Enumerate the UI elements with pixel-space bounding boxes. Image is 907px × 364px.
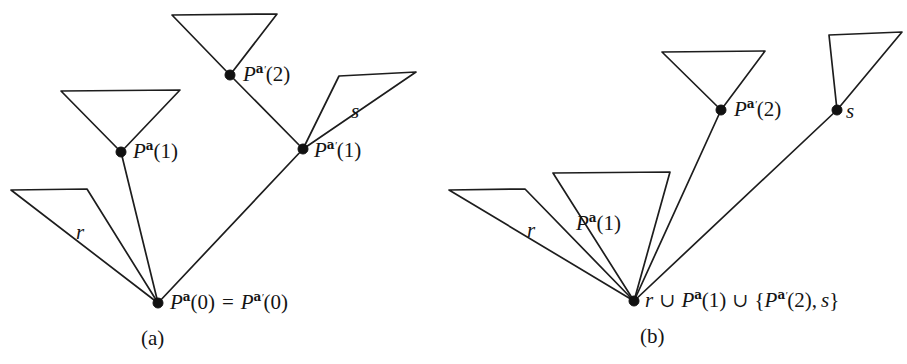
label-s-glyph: s	[351, 99, 359, 123]
label-equals-sign: =	[215, 290, 241, 314]
node-pap1-a	[298, 144, 308, 154]
triangle-r-a	[11, 189, 158, 303]
label-arg-two: (2)	[266, 62, 291, 86]
label-P-glyph: P	[576, 211, 589, 235]
label-arg-one: (1)	[153, 139, 178, 163]
label-arg-two: (2)	[757, 97, 782, 121]
label-P-glyph: P	[243, 62, 256, 86]
panel-b-graphics	[449, 32, 902, 306]
label-pap2-a: Pa′(2)	[243, 64, 290, 85]
label-s-glyph: s	[846, 99, 854, 123]
node-s-b	[832, 105, 842, 115]
label-arg-one: (1)	[702, 288, 727, 312]
label-P-glyph: P	[133, 139, 146, 163]
label-root-union-b: r∪Pa(1)∪{Pa′(2),s}	[645, 290, 839, 311]
edge-root-to-pap1-a	[158, 149, 303, 303]
label-brace-open: {	[754, 288, 764, 312]
edge-root-to-s-b	[634, 110, 837, 301]
node-root-b	[629, 296, 639, 306]
label-P-glyph: P	[681, 288, 694, 312]
label-pap1-a: Pa′(1)	[314, 140, 361, 161]
figure-container: Pa(1) Pa′(2) Pa′(1) s r Pa(0)=Pa′(0) (a)…	[0, 0, 907, 364]
label-r-b: r	[527, 220, 535, 241]
label-arg-zero: (0)	[190, 290, 215, 314]
label-r-glyph: r	[527, 218, 535, 242]
edge-root-to-pa1-a	[121, 152, 158, 303]
label-pap2-b: Pa′(2)	[734, 99, 781, 120]
label-arg-zero: (0)	[264, 290, 289, 314]
label-s-a: s	[351, 101, 359, 122]
edge-root-to-pap2-b	[634, 110, 721, 301]
node-pap2-b	[716, 105, 726, 115]
label-pa1-b: Pa(1)	[576, 213, 621, 234]
triangle-s-b	[829, 32, 902, 110]
label-brace-close: }	[829, 288, 839, 312]
label-arg-two: (2)	[787, 288, 812, 312]
label-arg-one: (1)	[596, 211, 621, 235]
label-root-equation-a: Pa(0)=Pa′(0)	[170, 292, 288, 313]
label-P-glyph: P	[170, 290, 183, 314]
label-P-glyph: P	[765, 288, 778, 312]
node-pa1-a	[116, 147, 126, 157]
label-frak-a-glyph: a	[694, 288, 702, 302]
label-P-glyph: P	[241, 290, 254, 314]
label-arg-one: (1)	[337, 138, 362, 162]
node-root-a	[153, 298, 163, 308]
caption-panel-a: (a)	[141, 328, 164, 349]
union-symbol-1: ∪	[653, 289, 681, 312]
union-symbol-2: ∪	[726, 289, 754, 312]
label-P-glyph: P	[314, 138, 327, 162]
label-r-a: r	[76, 222, 84, 243]
label-pa1-a: Pa(1)	[133, 141, 178, 162]
label-r-glyph: r	[645, 288, 653, 312]
edge-pap1-to-pap2-a	[230, 75, 303, 149]
label-P-glyph: P	[734, 97, 747, 121]
label-comma: ,	[812, 288, 821, 312]
label-s-b: s	[846, 101, 854, 122]
triangle-r-b	[449, 189, 634, 301]
label-frak-a-glyph: a	[777, 288, 785, 302]
node-pap2-a	[225, 70, 235, 80]
caption-panel-b: (b)	[640, 326, 665, 347]
label-r-glyph: r	[76, 220, 84, 244]
